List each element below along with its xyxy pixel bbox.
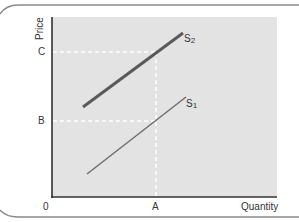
series-label-s2-sub: 2 xyxy=(191,36,195,45)
y-axis-label: Price xyxy=(34,18,46,40)
series-label-s1: S1 xyxy=(186,99,197,110)
series-label-s1-sub: 1 xyxy=(193,101,197,110)
series-label-s2: S2 xyxy=(184,34,195,45)
series-label-s2-main: S xyxy=(184,33,191,44)
frame-top-border xyxy=(0,5,299,14)
x-tick-a: A xyxy=(152,202,159,212)
figure-frame: Price C B 0 A Quantity S2 S1 xyxy=(0,0,299,222)
y-tick-c: C xyxy=(38,47,45,57)
origin-label: 0 xyxy=(43,202,49,212)
series-label-s1-main: S xyxy=(186,98,193,109)
y-tick-b: B xyxy=(38,116,45,126)
x-axis-label: Quantity xyxy=(241,202,278,212)
plot-area xyxy=(52,17,277,197)
